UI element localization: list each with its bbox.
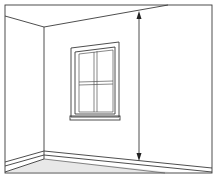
room-illustration xyxy=(0,0,215,176)
window-muntin-top xyxy=(79,81,113,82)
window-casing xyxy=(71,42,119,117)
arrow-head-top-icon xyxy=(137,11,142,19)
left-ceiling-edge xyxy=(5,16,44,27)
outer-frame xyxy=(5,5,212,173)
arrow-head-bottom-icon xyxy=(137,153,142,161)
height-measurement-arrow xyxy=(137,11,142,161)
window xyxy=(70,42,120,120)
window-frame xyxy=(75,47,115,114)
ceiling-line xyxy=(44,5,168,27)
window-muntin-bottom xyxy=(79,84,113,85)
